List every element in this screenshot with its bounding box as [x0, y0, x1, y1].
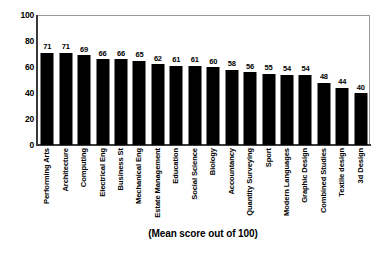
y-tick-label: 80 [10, 36, 34, 46]
bar-chart: 020406080100 717169666665626161605856555… [0, 0, 383, 262]
x-tick-label: Textile design [338, 148, 346, 197]
category-slot: Quantity Surveying [241, 148, 259, 226]
y-tick-label: 60 [10, 62, 34, 72]
bar-slot: 66 [93, 15, 111, 145]
category-slot: 3d Design [352, 148, 370, 226]
x-tick-label: 3d Design [357, 148, 365, 183]
category-slot: Combined Studies [315, 148, 333, 226]
x-tick-label: Performing Arts [43, 148, 51, 204]
bar-slot: 66 [112, 15, 130, 145]
category-slot: Textile design [333, 148, 351, 226]
bar-slot: 61 [167, 15, 185, 145]
bar [317, 83, 330, 145]
bar-slot: 69 [75, 15, 93, 145]
category-slot: Architecture [56, 148, 74, 226]
category-slot: Social Science [186, 148, 204, 226]
category-slot: Education [167, 148, 185, 226]
x-tick-label: Electrical Eng [99, 148, 107, 197]
bar [299, 75, 312, 145]
x-tick-label: Education [172, 148, 180, 184]
bar [280, 75, 293, 145]
bar-slot: 60 [204, 15, 222, 145]
bar-slot: 61 [186, 15, 204, 145]
bar-slot: 40 [352, 15, 370, 145]
bars-layer: 717169666665626161605856555454484440 [38, 15, 370, 145]
bar-slot: 55 [259, 15, 277, 145]
category-slot: Biology [204, 148, 222, 226]
y-tick-label: 20 [10, 114, 34, 124]
bar-slot: 71 [56, 15, 74, 145]
category-labels-layer: Performing ArtsArchitectureComputingElec… [38, 148, 370, 226]
bar-value-label: 56 [246, 63, 254, 71]
bar-slot: 44 [333, 15, 351, 145]
bar-value-label: 55 [265, 64, 273, 72]
bar-value-label: 71 [43, 43, 51, 51]
bar-value-label: 48 [320, 73, 328, 81]
bar [133, 61, 146, 146]
x-tick-label: Architecture [62, 148, 70, 192]
bar-slot: 62 [149, 15, 167, 145]
bar [244, 72, 257, 145]
x-axis-caption: (Mean score out of 100) [36, 228, 370, 239]
bar [207, 67, 220, 145]
x-tick-label: Business St [117, 148, 125, 190]
x-tick-label: Modern Languages [283, 148, 291, 216]
category-slot: Accountancy [222, 148, 240, 226]
category-slot: Mechanical Eng [130, 148, 148, 226]
bar-value-label: 71 [62, 43, 70, 51]
bar [114, 59, 127, 145]
bar [96, 59, 109, 145]
category-slot: Sport [259, 148, 277, 226]
x-tick-label: Graphic Design [301, 148, 309, 203]
bar-value-label: 54 [283, 65, 291, 73]
category-slot: Business St [112, 148, 130, 226]
bar-value-label: 61 [191, 56, 199, 64]
bar-value-label: 60 [209, 58, 217, 66]
x-tick-label: Estate Management [154, 148, 162, 218]
y-tick-label: 100 [10, 10, 34, 20]
bar [41, 53, 54, 145]
bar [262, 74, 275, 146]
x-tick-label: Biology [209, 148, 217, 175]
y-tick-label: 0 [10, 140, 34, 150]
x-tick-label: Mechanical Eng [135, 148, 143, 204]
bar-slot: 54 [296, 15, 314, 145]
category-slot: Computing [75, 148, 93, 226]
bar-value-label: 66 [99, 50, 107, 58]
bar-slot: 56 [241, 15, 259, 145]
bar [78, 55, 91, 145]
bar [188, 66, 201, 145]
bar-value-label: 65 [135, 51, 143, 59]
y-tick-label: 40 [10, 88, 34, 98]
category-slot: Electrical Eng [93, 148, 111, 226]
bar [354, 93, 367, 145]
x-tick-label: Computing [80, 148, 88, 187]
category-slot: Performing Arts [38, 148, 56, 226]
x-tick-label: Combined Studies [320, 148, 328, 213]
bar-value-label: 69 [80, 46, 88, 54]
x-tick-label: Quantity Surveying [246, 148, 254, 216]
category-slot: Estate Management [149, 148, 167, 226]
bar-slot: 54 [278, 15, 296, 145]
bar-value-label: 44 [338, 78, 346, 86]
bar-slot: 71 [38, 15, 56, 145]
bar [151, 64, 164, 145]
bar-value-label: 61 [172, 56, 180, 64]
bar-slot: 65 [130, 15, 148, 145]
bar [225, 70, 238, 145]
bar [59, 53, 72, 145]
x-tick-label: Social Science [191, 148, 199, 200]
x-tick-label: Accountancy [228, 148, 236, 195]
category-slot: Modern Languages [278, 148, 296, 226]
bar-value-label: 54 [301, 65, 309, 73]
bar-slot: 48 [315, 15, 333, 145]
bar [336, 88, 349, 145]
bar [170, 66, 183, 145]
bar-slot: 58 [222, 15, 240, 145]
bar-value-label: 40 [357, 84, 365, 92]
bar-value-label: 62 [154, 55, 162, 63]
bar-value-label: 58 [228, 60, 236, 68]
bar-value-label: 66 [117, 50, 125, 58]
y-axis: 020406080100 [10, 9, 34, 151]
category-slot: Graphic Design [296, 148, 314, 226]
